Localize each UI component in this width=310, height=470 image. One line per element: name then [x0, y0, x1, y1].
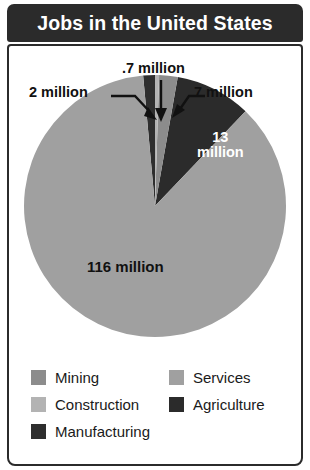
legend-swatch-agriculture — [169, 397, 184, 412]
legend-label-services: Services — [193, 369, 251, 386]
legend-item-manufacturing[interactable]: Manufacturing — [31, 418, 150, 445]
callout-label-2-million: 2 million — [29, 84, 88, 100]
legend-label-construction: Construction — [55, 396, 139, 413]
legend-label-mining: Mining — [55, 369, 99, 386]
slice-label-agriculture-unit: million — [197, 145, 244, 160]
legend-label-agriculture: Agriculture — [193, 396, 265, 413]
legend-item-construction[interactable]: Construction — [31, 391, 150, 418]
legend: MiningConstructionManufacturing Services… — [9, 364, 301, 460]
pie-slices — [24, 75, 286, 337]
slice-label-agriculture-value: 13 — [197, 130, 244, 145]
legend-swatch-construction — [31, 397, 46, 412]
header-bar: Jobs in the United States — [7, 4, 303, 42]
callout-label-7-million: 7 million — [194, 84, 253, 100]
pie-svg — [23, 74, 287, 338]
legend-column-left: MiningConstructionManufacturing — [31, 364, 150, 445]
legend-item-agriculture[interactable]: Agriculture — [169, 391, 265, 418]
card-body: 2 million .7 million 7 million 116 milli… — [7, 44, 303, 466]
legend-swatch-manufacturing — [31, 424, 46, 439]
legend-label-manufacturing: Manufacturing — [55, 423, 150, 440]
legend-item-mining[interactable]: Mining — [31, 364, 150, 391]
legend-swatch-mining — [31, 370, 46, 385]
legend-swatch-services — [169, 370, 184, 385]
legend-item-services[interactable]: Services — [169, 364, 265, 391]
pie-chart: 2 million .7 million 7 million 116 milli… — [9, 46, 301, 366]
infographic-card: Jobs in the United States 2 million .7 m… — [7, 4, 303, 466]
callout-label-point7-million: .7 million — [122, 60, 185, 76]
slice-label-services: 116 million — [87, 258, 164, 275]
page-title: Jobs in the United States — [37, 12, 272, 35]
legend-column-right: ServicesAgriculture — [169, 364, 265, 418]
slice-label-agriculture: 13 million — [197, 130, 244, 160]
